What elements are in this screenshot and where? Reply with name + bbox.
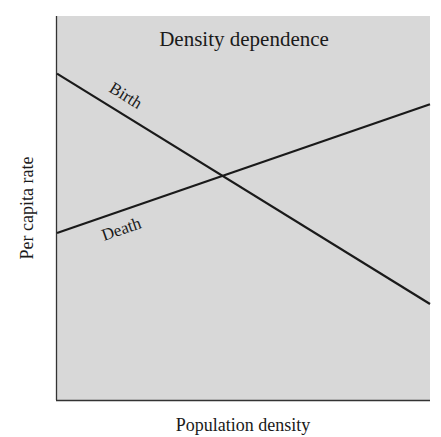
y-axis-label: Per capita rate (17, 157, 37, 260)
plot-background (56, 16, 430, 400)
density-dependence-chart: Density dependence Birth Death Per capit… (0, 0, 441, 437)
x-axis-label: Population density (176, 415, 311, 435)
chart-title: Density dependence (159, 27, 329, 51)
